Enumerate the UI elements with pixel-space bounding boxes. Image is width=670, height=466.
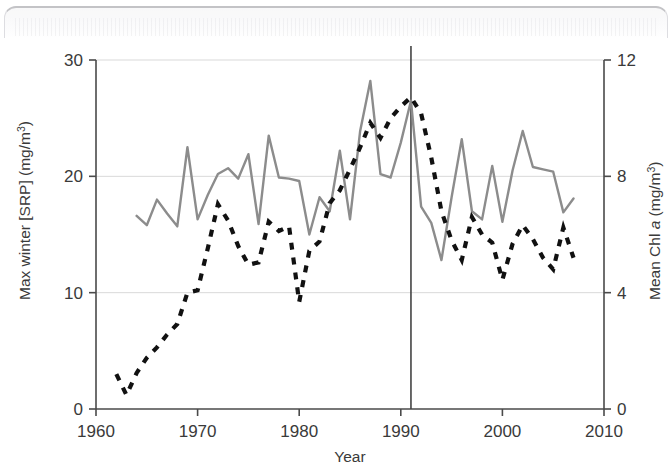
right-tick-label: 12	[617, 51, 636, 70]
x-tick-label: 2000	[483, 422, 521, 441]
left-tick-label: 10	[64, 284, 83, 303]
x-tick-label: 2010	[585, 422, 623, 441]
right-tick-label: 4	[617, 284, 626, 303]
chart-figure: 0102030 04812 196019701980199020002010 M…	[0, 0, 670, 466]
gridlines	[96, 60, 604, 293]
x-tick-label: 1980	[280, 422, 318, 441]
left-axis-tick-labels: 0102030	[64, 51, 83, 419]
right-axis-ticks	[604, 60, 611, 409]
left-axis-ticks	[89, 60, 96, 409]
right-tick-label: 0	[617, 400, 626, 419]
bottom-axis-tick-labels: 196019701980199020002010	[77, 422, 623, 441]
right-tick-label: 8	[617, 167, 626, 186]
bottom-axis-ticks	[96, 409, 604, 416]
left-axis-title: Max winter [SRP] (mg/m3)	[15, 121, 33, 300]
series-mean-chl-a-line	[137, 81, 574, 260]
left-tick-label: 30	[64, 51, 83, 70]
left-tick-label: 20	[64, 167, 83, 186]
left-tick-label: 0	[74, 400, 83, 419]
left-axis-title-text: Max winter [SRP] (mg/m	[16, 132, 33, 300]
dual-axis-line-chart: 0102030 04812 196019701980199020002010 M…	[0, 0, 670, 466]
right-axis-title-text: Mean Chl	[646, 229, 663, 300]
series-max-winter-srp-line	[116, 97, 573, 395]
x-tick-label: 1970	[179, 422, 217, 441]
x-axis-title: Year	[334, 448, 365, 465]
x-tick-label: 1990	[382, 422, 420, 441]
x-tick-label: 1960	[77, 422, 115, 441]
right-axis-title: Mean Chl a (mg/m3)	[645, 161, 663, 300]
right-axis-tick-labels: 04812	[617, 51, 636, 419]
